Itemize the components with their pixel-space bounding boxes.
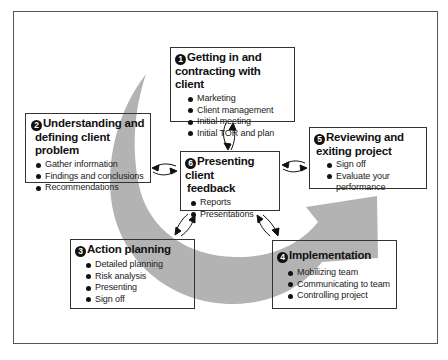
list-item: Initial TOR and plan [188,128,290,140]
step-1-title-line2: contracting with client [175,65,290,91]
list-item: Communicating to team [288,279,392,291]
step-5-title-line2: exiting project [314,145,422,158]
step-2-title-line2: defining client problem [31,131,146,157]
step-2-box: 2Understanding and defining client probl… [25,113,151,183]
step-1-title: 1Getting in and [175,51,290,65]
arrow-2-6 [152,164,177,175]
step-number-badge: 6 [185,158,196,169]
list-item: Gather information [36,159,146,171]
step-4-title: 4Implementation [277,249,392,263]
step-5-title: 5Reviewing and [314,131,422,145]
arrow-6-5 [282,161,307,172]
step-4-items: Mobilizing team Communicating to team Co… [277,267,392,302]
list-item: Sign off [327,159,422,171]
list-item: Reports [191,197,275,209]
step-number-badge: 4 [277,252,288,263]
list-item: Findings and conclusions [36,171,146,183]
list-item: Recommendations [36,182,146,194]
list-item: Initial meeting [188,116,290,128]
step-6-items: Reports Presentations [185,197,275,220]
list-item: Mobilizing team [288,267,392,279]
step-1-box: 1Getting in and contracting with client … [170,47,295,122]
list-item: Presenting [86,282,190,294]
step-6-title-line2: feedback [185,182,275,195]
step-2-items: Gather information Findings and conclusi… [31,159,146,194]
list-item: Marketing [188,93,290,105]
list-item: Controlling project [288,290,392,302]
list-item: Evaluate your [327,171,422,183]
step-number-badge: 2 [31,120,42,131]
step-3-items: Detailed planning Risk analysis Presenti… [75,259,190,305]
step-number-badge: 1 [175,54,186,65]
list-item: Risk analysis [86,271,190,283]
step-6-box: 6Presenting client feedback Reports Pres… [180,151,280,211]
step-4-box: 4Implementation Mobilizing team Communic… [272,240,397,309]
step-5-box: 5Reviewing and exiting project Sign off … [309,127,427,189]
list-item-continuation: performance [327,182,422,194]
step-6-title: 6Presenting client [185,155,275,182]
step-1-items: Marketing Client management Initial meet… [175,93,290,139]
list-item: Client management [188,105,290,117]
list-item: Sign off [86,294,190,306]
list-item: Detailed planning [86,259,190,271]
step-5-items: Sign off Evaluate your performance [314,159,422,194]
step-number-badge: 3 [75,246,86,257]
step-3-title: 3Action planning [75,243,190,257]
step-number-badge: 5 [314,134,325,145]
list-item: Presentations [191,209,275,221]
step-3-box: 3Action planning Detailed planning Risk … [70,239,195,309]
step-2-title: 2Understanding and [31,117,146,131]
